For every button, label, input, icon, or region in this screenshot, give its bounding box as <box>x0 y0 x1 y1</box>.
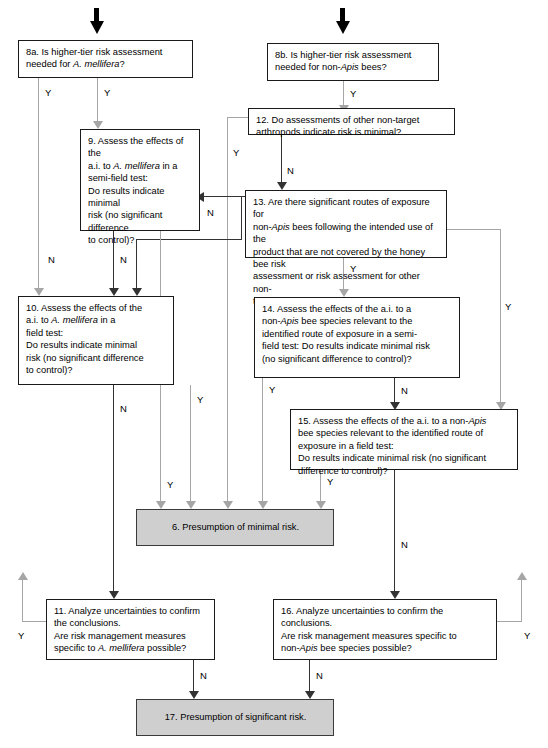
entry-arrow-left-stem <box>94 8 99 22</box>
node-9-line1: 9. Assess the effects of the <box>88 135 193 160</box>
edge-13-yes-right-horizontal <box>447 229 500 230</box>
node-9-line6: to control)? <box>88 234 193 246</box>
edge-12-to-13 <box>281 135 282 184</box>
edge-16-yes-arrowhead <box>517 572 527 580</box>
entry-arrow-right-stem <box>340 8 345 22</box>
node-11-line1: 11. Analyze uncertainties to confirm <box>54 605 208 617</box>
node-8a-line2: needed for A. mellifera? <box>26 58 186 70</box>
edge-label-13-yes-down: Y <box>350 264 356 274</box>
entry-arrow-left-head <box>90 21 104 34</box>
edge-16-to-17-arrowhead <box>305 691 315 699</box>
edge-label-11-no: N <box>200 671 207 681</box>
node-17[interactable]: 17. Presumption of significant risk. <box>136 699 334 736</box>
edge-16-yes-vertical <box>521 580 522 622</box>
edge-label-8a-yes-left: Y <box>45 88 51 98</box>
edge-13-yes-right-vertical <box>500 229 501 404</box>
edge-label-9-no-a: N <box>48 255 55 265</box>
node-12[interactable]: 12. Do assessments of other non-target a… <box>248 108 455 135</box>
node-13[interactable]: 13. Are there significant routes of expo… <box>245 190 447 258</box>
edge-12-yes-arrowhead <box>223 501 233 509</box>
node-10-line3: field test: <box>26 327 167 339</box>
edge-label-14-yes: Y <box>269 385 275 395</box>
node-10-line4: Do results indicate minimal <box>26 339 167 351</box>
node-11-line3: Are risk management measures <box>54 630 208 642</box>
edge-label-9-no-b: N <box>120 255 127 265</box>
edge-label-10-yes: Y <box>197 395 203 405</box>
node-16-line3: Are risk management measures specific to <box>281 630 490 642</box>
node-9-line4: Do results indicate minimal <box>88 185 193 210</box>
edge-12-yes-horizontal <box>227 117 249 118</box>
node-14-line3: identified route of exposure in a semi- <box>262 328 453 340</box>
edge-rail-to-10-arrowhead <box>132 288 142 296</box>
node-11-line4: specific to A. mellifera possible? <box>54 642 208 654</box>
node-16-line4: non-Apis bee species possible? <box>281 642 490 654</box>
edge-8a-to-9 <box>97 78 98 123</box>
entry-arrow-right-head <box>336 21 350 34</box>
node-9-line3: semi-field test: <box>88 172 193 184</box>
edge-14-yes-to-6 <box>262 378 263 503</box>
edge-rail-from-13-down <box>241 196 242 240</box>
node-9[interactable]: 9. Assess the effects of the a.i. to A. … <box>80 129 200 231</box>
node-14-line2: non-Apis bee species relevant to the <box>262 315 453 327</box>
edge-label-6-yes-mid: Y <box>167 480 173 490</box>
node-15[interactable]: 15. Assess the effects of the a.i. to a … <box>290 409 518 470</box>
node-15-line2: bee species relevant to the identified r… <box>298 427 511 439</box>
node-10-line1: 10. Assess the effects of the <box>26 302 167 314</box>
edge-label-12-yes: Y <box>233 148 239 158</box>
edge-12-yes-vertical <box>227 117 228 503</box>
edge-16-yes-horizontal <box>497 621 522 622</box>
edge-label-13-yes-right: Y <box>505 302 511 312</box>
edge-15-yes-to-6-arrowhead <box>316 501 326 509</box>
edge-15-no-to-16-arrowhead <box>390 591 400 599</box>
node-10-line2: a.i. to A. mellifera in a <box>26 314 167 326</box>
node-16[interactable]: 16. Analyze uncertainties to confirm the… <box>273 599 497 660</box>
edge-8a-to-9-arrowhead <box>93 121 103 129</box>
edge-15-no-to-16 <box>394 470 395 593</box>
node-6[interactable]: 6. Presumption of minimal risk. <box>136 509 334 546</box>
edge-label-16-no: N <box>316 671 323 681</box>
node-14-line1: 14. Assess the effects of the a.i. to a <box>262 303 453 315</box>
edge-label-8b-yes: Y <box>350 89 356 99</box>
node-6-label: 6. Presumption of minimal risk. <box>172 521 299 533</box>
node-8b[interactable]: 8b. Is higher-tier risk assessment neede… <box>267 43 439 81</box>
node-14-line5: (no significant difference to control)? <box>262 353 453 365</box>
node-12-line1: 12. Do assessments of other non-target <box>256 114 448 126</box>
edge-label-11-yes: Y <box>18 631 24 641</box>
node-17-label: 17. Presumption of significant risk. <box>165 711 307 723</box>
node-8a-line1: 8a. Is higher-tier risk assessment <box>26 46 186 58</box>
edge-11-yes-horizontal <box>22 621 46 622</box>
node-15-line1: 15. Assess the effects of the a.i. to a … <box>298 415 511 427</box>
node-15-line4: Do results indicate minimal risk (no sig… <box>298 452 511 464</box>
edge-11-to-17-arrowhead <box>189 691 199 699</box>
edge-16-to-17 <box>309 660 310 693</box>
node-8b-line2: needed for non-Apis bees? <box>275 61 432 73</box>
node-13-line2: non-Apis bees following the intended use… <box>253 221 440 246</box>
edge-label-15-yes: Y <box>327 477 333 487</box>
edge-14-yes-to-6-arrowhead <box>258 501 268 509</box>
node-10[interactable]: 10. Assess the effects of the a.i. to A.… <box>18 296 174 385</box>
node-9-line5: risk (no significant difference <box>88 209 193 234</box>
node-8a[interactable]: 8a. Is higher-tier risk assessment neede… <box>18 40 193 78</box>
node-14[interactable]: 14. Assess the effects of the a.i. to a … <box>254 297 460 378</box>
edge-8a-to-10 <box>38 78 39 290</box>
edge-10-no-to-11-arrowhead <box>109 591 119 599</box>
edge-10-yes-to-6 <box>190 385 191 503</box>
edge-8a-to-10-arrowhead <box>34 288 44 296</box>
node-13-line1: 13. Are there significant routes of expo… <box>253 196 440 221</box>
edge-9-no-left-arrowhead <box>109 288 119 296</box>
flowchart-canvas: 8a. Is higher-tier risk assessment neede… <box>0 0 548 748</box>
node-13-line4: assessment or risk assessment for other … <box>253 270 440 295</box>
edge-label-16-yes: Y <box>524 631 530 641</box>
edge-8b-to-12 <box>343 81 344 107</box>
edge-label-13-no: N <box>207 208 214 218</box>
node-11-line2: the conclusions. <box>54 617 208 629</box>
node-11[interactable]: 11. Analyze uncertainties to confirm the… <box>46 599 215 660</box>
edge-label-14-no: N <box>401 386 408 396</box>
edge-12-to-13-arrowhead <box>277 182 287 190</box>
node-16-line1: 16. Analyze uncertainties to confirm the <box>281 605 490 617</box>
edge-9-yes-to-6-arrowhead <box>156 501 166 509</box>
edge-11-yes-vertical <box>22 580 23 622</box>
edge-10-yes-to-6-arrowhead <box>186 501 196 509</box>
edge-10-no-to-11 <box>113 385 114 593</box>
node-8b-line1: 8b. Is higher-tier risk assessment <box>275 49 432 61</box>
